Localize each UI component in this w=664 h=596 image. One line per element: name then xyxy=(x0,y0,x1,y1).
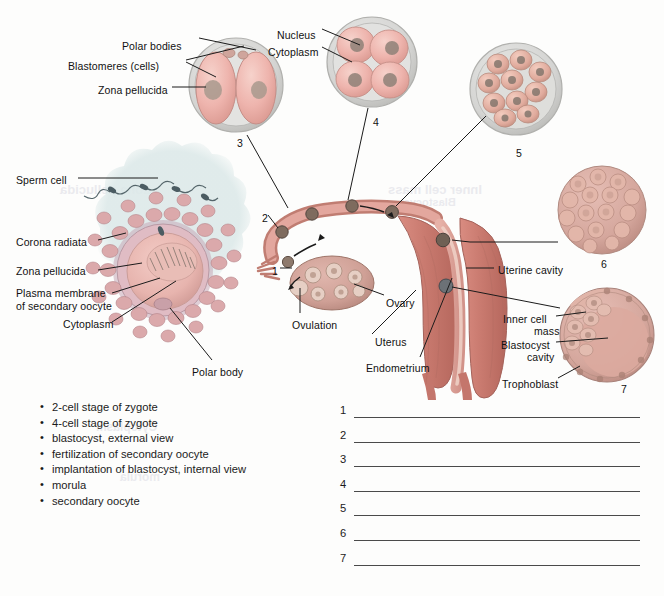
stage-number-7: 7 xyxy=(621,383,627,395)
label-blastomeres: Blastomeres (cells) xyxy=(68,60,159,73)
label-cytoplasm-top: Cytoplasm xyxy=(268,46,319,59)
answer-number: 6 xyxy=(340,527,346,539)
blastocyst-internal-illustration xyxy=(560,288,654,382)
answer-row: 6 xyxy=(340,525,640,550)
word-bank-item: secondary oocyte xyxy=(38,494,328,510)
label-inner-cell-mass-2: mass xyxy=(534,325,560,338)
stage-number-3: 3 xyxy=(237,137,243,149)
answer-blank-1[interactable] xyxy=(354,417,640,418)
label-polar-body: Polar body xyxy=(192,366,243,379)
label-ovulation: Ovulation xyxy=(292,319,337,332)
label-zona-pellucida-left: Zona pellucida xyxy=(16,265,86,278)
label-uterus: Uterus xyxy=(375,336,407,349)
stage-number-4: 4 xyxy=(373,116,379,128)
label-zona-pellucida-top: Zona pellucida xyxy=(98,84,168,97)
label-plasma-membrane-2: of secondary oocyte xyxy=(16,300,112,313)
answer-lines: 1234567 xyxy=(340,402,640,574)
morula-illustration xyxy=(470,43,562,135)
leader-lines xyxy=(78,29,608,378)
label-endometrium: Endometrium xyxy=(366,362,430,375)
label-polar-bodies: Polar bodies xyxy=(122,40,182,53)
stage-number-1: 1 xyxy=(272,265,278,277)
label-nucleus: Nucleus xyxy=(277,29,316,42)
label-cytoplasm-left: Cytoplasm xyxy=(63,318,114,331)
label-inner-cell-mass: Inner cell xyxy=(503,313,547,326)
stage-number-5: 5 xyxy=(516,147,522,159)
answer-blank-3[interactable] xyxy=(354,466,640,467)
label-sperm-cell: Sperm cell xyxy=(16,174,67,187)
word-bank-item: 2-cell stage of zygote xyxy=(38,400,328,416)
label-blastocyst-cavity: Blastocyst xyxy=(501,339,550,352)
answer-blank-4[interactable] xyxy=(354,491,640,492)
ghost-text: Inner cell mass xyxy=(388,182,482,197)
ghost-text: Zona pellucida xyxy=(60,182,151,197)
answer-number: 2 xyxy=(340,429,346,441)
answer-blank-5[interactable] xyxy=(354,515,640,516)
embryo-stages-in-tube xyxy=(276,200,453,293)
stage-number-6: 6 xyxy=(601,258,607,270)
word-bank-item: morula xyxy=(38,478,328,494)
word-bank-list: 2-cell stage of zygote4-cell stage of zy… xyxy=(38,400,328,509)
label-corona-radiata: Corona radiata xyxy=(16,236,87,249)
label-uterine-cavity: Uterine cavity xyxy=(498,264,563,277)
answer-row: 3 xyxy=(340,451,640,476)
worksheet-page: Inner cell massBlastocystZona pellucidaC… xyxy=(0,0,664,596)
answer-number: 1 xyxy=(340,404,346,416)
label-blastocyst-cavity-2: cavity xyxy=(527,351,554,364)
answer-row: 2 xyxy=(340,427,640,452)
answer-row: 5 xyxy=(340,500,640,525)
word-bank-item: fertilization of secondary oocyte xyxy=(38,447,328,463)
label-ovary: Ovary xyxy=(386,297,415,310)
word-bank: 2-cell stage of zygote4-cell stage of zy… xyxy=(38,400,328,509)
blastocyst-external-illustration xyxy=(558,166,646,254)
label-trophoblast: Trophoblast xyxy=(502,378,558,391)
answer-number: 5 xyxy=(340,502,346,514)
sperm-cells xyxy=(84,181,218,200)
movement-arrows xyxy=(294,206,384,256)
answer-row: 7 xyxy=(340,550,640,575)
ghost-text: Blastocyst xyxy=(400,196,456,208)
answer-number: 3 xyxy=(340,453,346,465)
answer-row: 1 xyxy=(340,402,640,427)
answer-row: 4 xyxy=(340,476,640,501)
label-plasma-membrane: Plasma membrane xyxy=(16,287,106,300)
answer-blank-6[interactable] xyxy=(354,540,640,541)
word-bank-item: 4-cell stage of zygote xyxy=(38,416,328,432)
zygote-4cell-illustration xyxy=(327,17,417,107)
answer-number: 4 xyxy=(340,478,346,490)
stage-number-2: 2 xyxy=(262,212,268,224)
answer-blank-2[interactable] xyxy=(354,442,640,443)
word-bank-item: blastocyst, external view xyxy=(38,431,328,447)
answer-blank-7[interactable] xyxy=(354,565,640,566)
word-bank-item: implantation of blastocyst, internal vie… xyxy=(38,462,328,478)
answer-number: 7 xyxy=(340,552,346,564)
